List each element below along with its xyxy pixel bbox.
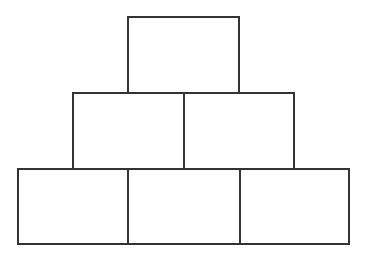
pyramid-block-bottom-center [127, 168, 241, 245]
pyramid-block-bottom-left [17, 168, 129, 245]
pyramid-block-top [127, 16, 240, 94]
pyramid-block-bottom-right [239, 168, 350, 245]
pyramid-block-middle-left [72, 92, 185, 170]
pyramid-block-middle-right [183, 92, 295, 170]
